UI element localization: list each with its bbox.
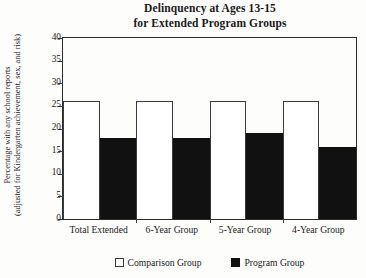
y-axis-tick-label: 20 [39, 122, 61, 132]
chart-legend: Comparison GroupProgram Group [62, 257, 357, 268]
x-axis-group-label: 6-Year Group [135, 224, 208, 235]
y-axis-tick-label: 5 [39, 190, 61, 200]
legend-item-program[interactable]: Program Group [231, 257, 304, 268]
bar-comparison [210, 101, 247, 219]
plot-inner: 0510152025303540 [63, 38, 356, 219]
y-axis-tick-label: 40 [39, 32, 61, 42]
y-axis-label: Percentage with any school reports (adju… [0, 0, 34, 250]
chart-title-line-2: for Extended Program Groups [60, 16, 360, 31]
bar-program [100, 138, 137, 219]
bar-comparison [136, 101, 173, 219]
y-axis-tick-label: 10 [39, 167, 61, 177]
legend-label: Comparison Group [128, 257, 202, 268]
y-axis-tick-label: 25 [39, 99, 61, 109]
legend-label: Program Group [244, 257, 304, 268]
legend-swatch-icon [115, 258, 124, 267]
y-axis-label-line-1: Percentage with any school reports [3, 66, 13, 183]
bar-comparison [63, 101, 100, 219]
plot-area: 0510152025303540 [62, 37, 357, 220]
x-axis-tick-mark [283, 219, 284, 223]
bar-program [173, 138, 210, 219]
x-axis-tick-mark [210, 219, 211, 223]
x-axis-group-label: 5-Year Group [209, 224, 282, 235]
legend-item-comparison[interactable]: Comparison Group [115, 257, 202, 268]
chart-title-line-1: Delinquency at Ages 13-15 [60, 1, 360, 16]
x-axis-tick-mark [136, 219, 137, 223]
bar-program [319, 147, 356, 219]
y-axis-tick-label: 30 [39, 77, 61, 87]
y-axis-tick-label: 0 [39, 213, 61, 223]
chart-title: Delinquency at Ages 13-15 for Extended P… [60, 1, 360, 30]
bar-comparison [283, 101, 320, 219]
legend-swatch-icon [231, 258, 240, 267]
bar-program [246, 133, 283, 219]
y-axis-tick-label: 35 [39, 54, 61, 64]
x-axis-group-label: 4-Year Group [282, 224, 355, 235]
x-axis-group-label: Total Extended [62, 224, 135, 235]
chart-figure: Delinquency at Ages 13-15 for Extended P… [0, 0, 366, 278]
y-axis-tick-label: 15 [39, 145, 61, 155]
y-axis-label-line-2: (adjusted for Kindergarten achievement, … [13, 34, 23, 216]
